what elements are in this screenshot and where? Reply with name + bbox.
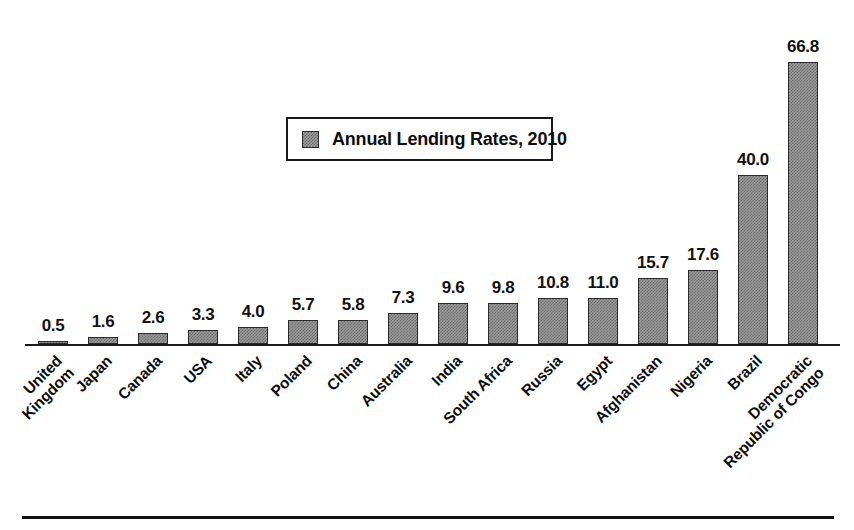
bar-group[interactable]: 10.8 (528, 0, 578, 346)
bar-rect[interactable] (588, 298, 618, 344)
plot-area: 0.5 1.6 2.6 3.3 4.0 5.7 (0, 0, 854, 346)
x-axis-tick-label: Nigeria (667, 352, 715, 400)
bar-value-label: 40.0 (721, 150, 785, 170)
x-axis-tick-label: Poland (267, 352, 315, 400)
bar-rect[interactable] (138, 333, 168, 344)
x-axis-tick-label: Canada (114, 352, 165, 403)
bar-group[interactable]: 3.3 (178, 0, 228, 346)
bar-rect[interactable] (738, 175, 768, 344)
bar-rect[interactable] (88, 337, 118, 344)
x-axis-tick-label: China (323, 352, 365, 394)
bar-group[interactable]: 11.0 (578, 0, 628, 346)
x-axis-tick-label: Democratic Republic of Congo (708, 352, 827, 471)
bar-rect[interactable] (788, 62, 818, 344)
bar-rect[interactable] (388, 313, 418, 344)
bar-rect[interactable] (438, 303, 468, 344)
bar-group[interactable]: 9.8 (478, 0, 528, 346)
bar-group[interactable]: 17.6 (678, 0, 728, 346)
bar-value-label: 11.0 (571, 273, 635, 293)
x-axis-tick-label: Australia (357, 352, 415, 410)
bars-layer: 0.5 1.6 2.6 3.3 4.0 5.7 (0, 0, 854, 346)
bar-value-label: 17.6 (671, 245, 735, 265)
bar-value-label: 66.8 (771, 37, 835, 57)
bar-group[interactable]: 15.7 (628, 0, 678, 346)
legend-entry-label: Annual Lending Rates, 2010 (332, 129, 567, 150)
bar-rect[interactable] (538, 298, 568, 344)
bottom-divider-rule (22, 516, 834, 519)
x-axis-labels: United Kingdom Japan Canada USA Italy Po… (0, 346, 854, 496)
bar-rect[interactable] (338, 320, 368, 344)
x-axis-tick-label: Egypt (573, 352, 615, 394)
bar-rect[interactable] (688, 270, 718, 344)
bar-group[interactable]: 66.8 (778, 0, 828, 346)
bar-rect[interactable] (188, 330, 218, 344)
bar-rect[interactable] (38, 341, 68, 344)
bar-group[interactable]: 2.6 (128, 0, 178, 346)
bar-chart-figure: 0.5 1.6 2.6 3.3 4.0 5.7 (0, 0, 854, 530)
chart-legend[interactable]: Annual Lending Rates, 2010 (286, 117, 553, 161)
bar-group[interactable]: 1.6 (78, 0, 128, 346)
x-axis-tick-label: Italy (232, 352, 265, 385)
x-axis-tick-label: Japan (72, 352, 115, 395)
bar-rect[interactable] (288, 320, 318, 344)
x-axis-tick-label: Brazil (724, 352, 765, 393)
x-axis-tick-label: USA (180, 352, 215, 387)
x-axis-tick-label: Russia (518, 352, 565, 399)
x-axis-tick-label: United Kingdom (6, 352, 77, 423)
bar-group[interactable]: 0.5 (28, 0, 78, 346)
bar-rect[interactable] (238, 327, 268, 344)
legend-swatch-icon (302, 131, 319, 148)
x-axis-tick-label: India (428, 352, 465, 389)
bar-rect[interactable] (488, 303, 518, 344)
bar-rect[interactable] (638, 278, 668, 344)
